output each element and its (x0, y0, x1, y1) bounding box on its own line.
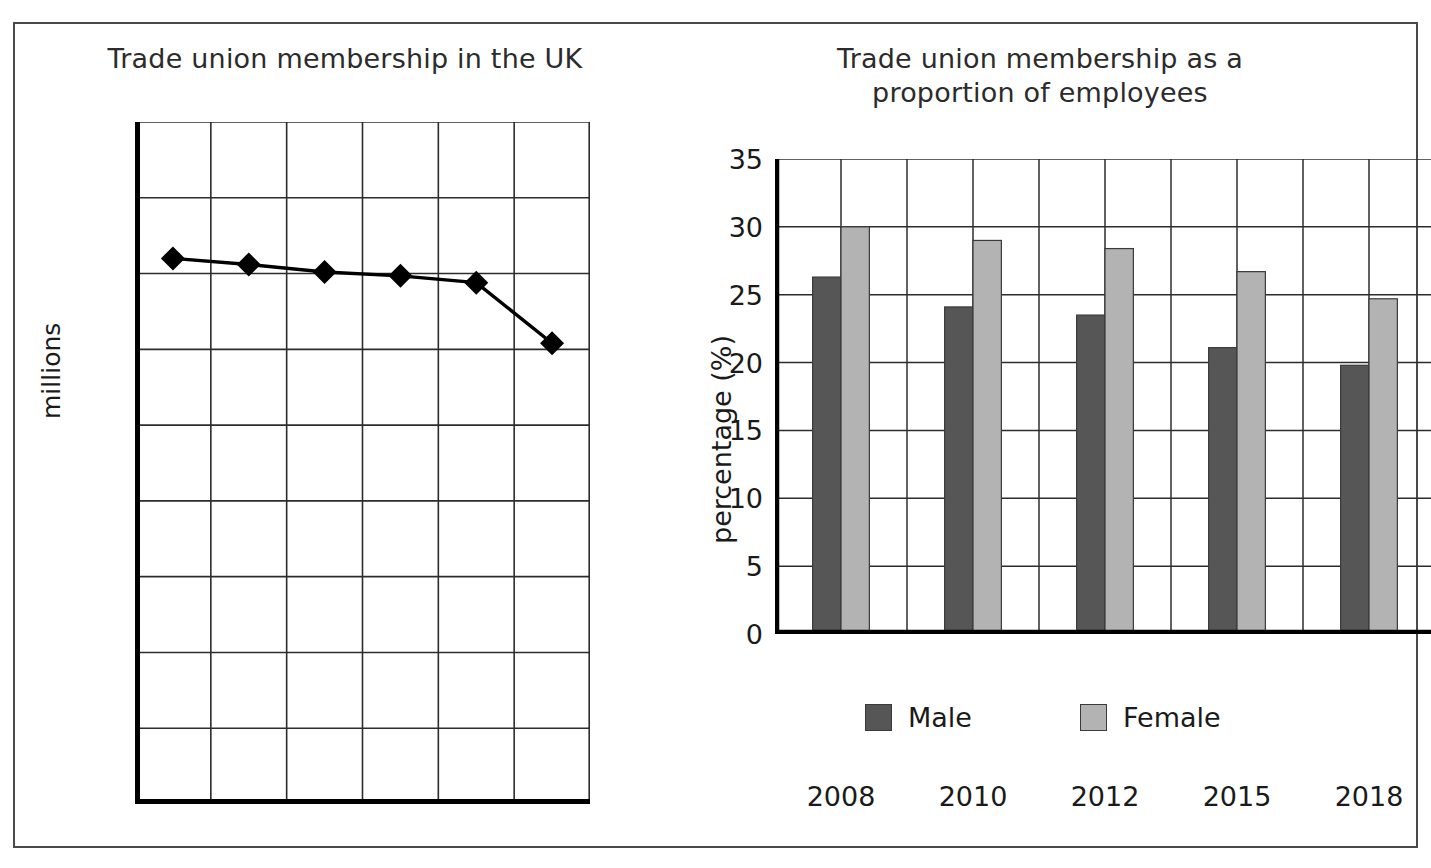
bar-chart-bar (1369, 299, 1397, 634)
bar-chart-bar (813, 277, 841, 634)
bar-chart-bar (1341, 365, 1369, 634)
line-chart-y-axis-title: millions (37, 323, 66, 419)
line-chart-plot-area: 0123456789 200820102012201420162018 (135, 122, 590, 804)
bar-chart-y-tick-label: 35 (711, 146, 763, 173)
legend-entry: Male (865, 704, 972, 731)
bar-chart-title-line-1: Trade union membership as a (710, 42, 1370, 76)
bar-chart-y-tick-label: 20 (711, 349, 763, 376)
bar-chart-bar (841, 227, 869, 634)
figure-frame: Trade union membership in the UK million… (13, 22, 1418, 848)
bar-chart-y-tick-label: 5 (711, 553, 763, 580)
line-chart-gridlines (135, 122, 590, 804)
bar-chart-y-tick-label: 10 (711, 485, 763, 512)
bar-chart-y-tick-label: 0 (711, 621, 763, 648)
bar-chart-bar (1237, 272, 1265, 634)
bar-chart-title-line-2: proportion of employees (710, 76, 1370, 110)
line-chart-panel: Trade union membership in the UK million… (15, 24, 675, 846)
legend-swatch-icon (865, 704, 892, 731)
bar-chart-bar (1209, 348, 1237, 634)
bar-chart-x-tick-label: 2010 (939, 783, 1008, 810)
legend-entry: Female (1080, 704, 1221, 731)
bar-chart-bar (973, 240, 1001, 634)
bar-chart-x-tick-label: 2015 (1203, 783, 1272, 810)
bar-chart-bar (1077, 315, 1105, 634)
bar-chart-svg (775, 159, 1431, 634)
bar-chart-bar (945, 307, 973, 634)
bar-chart-y-tick-label: 15 (711, 417, 763, 444)
bar-chart-title: Trade union membership as a proportion o… (710, 42, 1370, 110)
line-chart-title: Trade union membership in the UK (35, 42, 655, 76)
bar-chart-bar (1105, 249, 1133, 634)
bar-chart-x-tick-label: 2018 (1335, 783, 1404, 810)
bar-chart-y-tick-label: 30 (711, 213, 763, 240)
bar-chart-legend: MaleFemale (865, 704, 1221, 731)
bar-chart-plot-area: 05101520253035 20082010201220152018 (775, 159, 1431, 634)
legend-label: Female (1123, 704, 1221, 731)
legend-label: Male (908, 704, 972, 731)
bar-chart-panel: Trade union membership as a proportion o… (670, 24, 1418, 846)
bar-chart-x-tick-label: 2008 (807, 783, 876, 810)
line-chart-svg (135, 122, 590, 804)
legend-swatch-icon (1080, 704, 1107, 731)
bar-chart-x-tick-label: 2012 (1071, 783, 1140, 810)
bar-chart-y-tick-label: 25 (711, 281, 763, 308)
